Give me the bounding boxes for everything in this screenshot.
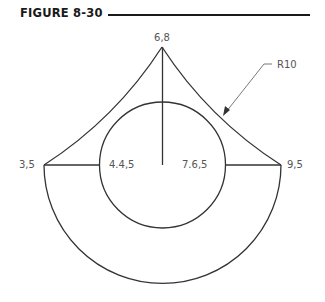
circle-right-label: 7.6,5 bbox=[182, 159, 207, 170]
r10-leader-line bbox=[226, 64, 272, 112]
outer-arc bbox=[44, 165, 281, 283]
right-point-label: 9,5 bbox=[287, 159, 303, 170]
drawing: 6,8 R10 3,5 4.4,5 7.6,5 9,5 bbox=[0, 0, 325, 302]
radius-callout-label: R10 bbox=[277, 59, 297, 70]
r10-arrowhead bbox=[223, 106, 230, 116]
left-point-label: 3,5 bbox=[19, 159, 35, 170]
apex-label: 6,8 bbox=[154, 32, 170, 43]
left-side-arc bbox=[44, 47, 162, 165]
circle-left-label: 4.4,5 bbox=[109, 159, 134, 170]
